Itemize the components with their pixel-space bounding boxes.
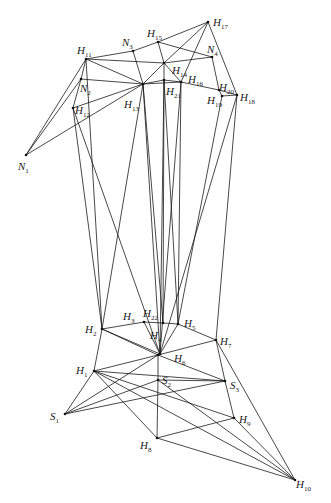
edges-layer	[26, 22, 295, 480]
edge-h15-h14	[158, 42, 164, 63]
label-s3: S3	[230, 379, 240, 394]
label-h19: H19	[206, 94, 222, 109]
node-h22	[162, 322, 165, 325]
label-n1: N1	[17, 160, 29, 175]
node-h19	[221, 95, 224, 98]
edge-h11-n2	[81, 59, 86, 79]
edge-s2-h8	[157, 380, 158, 438]
label-h2: H2	[84, 323, 97, 338]
node-h13	[142, 83, 145, 86]
edge-h1-s3	[94, 371, 225, 381]
label-h12: H12	[74, 104, 90, 119]
edge-h6-s3	[158, 355, 225, 381]
edge-h1-h8	[94, 371, 157, 438]
label-h7: H7	[219, 335, 232, 350]
label-h5: H5	[183, 317, 196, 332]
edge-n4-h20	[212, 57, 219, 90]
edge-s2-h10	[158, 380, 295, 480]
edge-s2-s1	[65, 380, 158, 414]
node-h7	[215, 339, 218, 342]
label-h3: H3	[122, 310, 135, 325]
node-h16	[180, 81, 183, 84]
edge-n1-n2	[26, 79, 81, 155]
node-h8	[156, 437, 159, 440]
edge-h18-h4	[160, 95, 237, 354]
label-n2: N2	[79, 82, 91, 97]
label-h16: H16	[187, 73, 203, 88]
node-s3	[224, 380, 227, 383]
edge-h21-h16	[164, 80, 181, 82]
label-h18: H18	[239, 91, 255, 106]
edge-h11-h14	[86, 59, 164, 63]
label-s1: S1	[50, 410, 60, 425]
edge-h17-h14	[164, 22, 208, 63]
node-h1	[93, 370, 96, 373]
node-n1	[25, 154, 28, 157]
node-h12	[72, 107, 75, 110]
label-h8: H8	[139, 439, 152, 454]
network-diagram: N1N2N3N4H1H2H3H4H5H6H7H8H9H10H11H12H13H1…	[0, 0, 331, 503]
node-h5	[177, 323, 180, 326]
edge-h4-h5	[160, 324, 178, 354]
edge-h8-h9	[157, 418, 234, 438]
edge-h18-h7	[216, 95, 237, 340]
edge-n1-h13	[26, 84, 143, 155]
edge-s3-s1	[65, 381, 225, 414]
edge-h2-h3	[102, 322, 144, 329]
node-h3	[143, 321, 146, 324]
label-h10: H10	[295, 478, 311, 493]
edge-h22-h5	[163, 323, 178, 324]
node-h2	[101, 328, 104, 331]
label-h11: H11	[76, 44, 92, 59]
edge-h11-n3	[86, 51, 133, 59]
edge-h13-h22	[143, 84, 163, 323]
label-h1: H1	[75, 364, 88, 379]
label-h22: H22	[142, 307, 158, 322]
node-n4	[211, 56, 214, 59]
edge-h1-s1	[65, 371, 94, 414]
edge-h14-n4	[164, 57, 212, 63]
node-h21	[163, 79, 166, 82]
label-h15: H15	[146, 27, 162, 42]
node-h14	[163, 62, 166, 65]
node-h6	[157, 354, 160, 357]
edge-h1-h6	[94, 355, 158, 371]
label-h13: H13	[123, 98, 139, 113]
label-n3: N3	[121, 36, 133, 51]
label-h6: H6	[173, 352, 186, 367]
label-h21: H21	[165, 85, 181, 100]
node-h9	[233, 417, 236, 420]
nodes-layer	[25, 21, 297, 482]
edge-h12-h2	[73, 108, 102, 329]
label-h17: H17	[212, 16, 228, 31]
node-h17	[207, 21, 210, 24]
edge-h19-h5	[178, 96, 222, 324]
edge-h11-h2	[86, 59, 102, 329]
label-s2: S2	[162, 374, 172, 389]
node-n2	[80, 78, 83, 81]
edge-h15-n4	[158, 42, 212, 57]
node-s2	[157, 379, 160, 382]
label-h14: H14	[171, 64, 187, 79]
edge-n3-h15	[133, 42, 158, 51]
node-h18	[236, 94, 239, 97]
edge-n3-h13	[133, 51, 143, 84]
label-n4: N4	[206, 43, 218, 58]
node-s1	[64, 413, 67, 416]
label-h9: H9	[238, 413, 251, 428]
edge-h21-h5	[164, 80, 178, 324]
